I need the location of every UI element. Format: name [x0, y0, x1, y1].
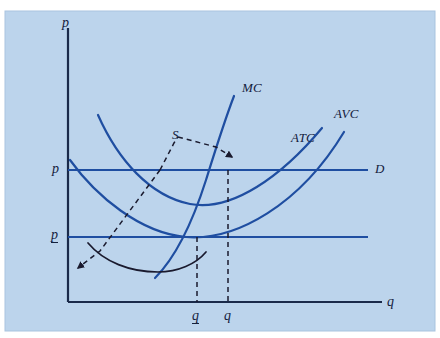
mc-curve-label: MC — [242, 81, 262, 94]
avc-curve-label: AVC — [334, 107, 359, 120]
x-axis-label: q — [387, 295, 394, 309]
supply-curve-label: S — [172, 128, 179, 141]
y-axis-label: p — [62, 16, 69, 30]
price-tick-p: p — [52, 162, 59, 176]
quantity-tick-q-underline: q — [192, 309, 199, 324]
quantity-tick-q: q — [224, 309, 231, 323]
demand-curve-label: D — [375, 162, 385, 175]
price-tick-p-underline: p — [51, 228, 58, 243]
economics-diagram-canvas — [0, 0, 440, 338]
atc-curve-label: ATC — [291, 131, 315, 144]
figure-container: p q p p q q MC ATC AVC D S — [0, 0, 440, 338]
